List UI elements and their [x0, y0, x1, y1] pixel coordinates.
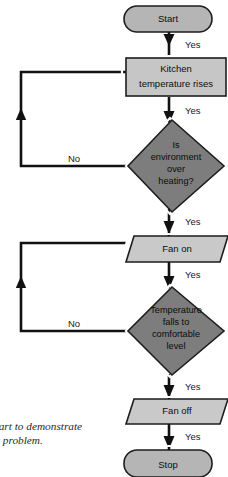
edge-label-yes-4: Yes — [185, 269, 201, 280]
caption-line-1: chart to demonstrate — [0, 420, 128, 434]
edge-label-yes-6: Yes — [185, 431, 201, 442]
node-fan-off[interactable]: Fan off — [122, 397, 228, 424]
stop-label: Stop — [158, 459, 178, 470]
kitchen-label-line1: Kitchen — [160, 63, 192, 74]
fanoff-label: Fan off — [162, 405, 192, 416]
edge-label-yes-3: Yes — [185, 216, 201, 227]
kitchen-label-line2: temperature rises — [139, 78, 213, 89]
decision1-label-line4: heating? — [158, 176, 193, 186]
node-stop[interactable]: Stop — [124, 446, 212, 477]
edge-label-yes-1: Yes — [185, 39, 201, 50]
connector-decision2-to-fanoff — [164, 374, 175, 399]
caption-line-2: uit problem. — [0, 434, 128, 448]
decision1-label-line1: Is — [172, 140, 180, 150]
edge-label-no-1: No — [68, 153, 80, 164]
decision1-label-line3: over — [167, 164, 185, 174]
connector-start-to-kitchen — [164, 31, 175, 56]
flowchart-svg: Start Kitchen temperature rises Is envir… — [0, 0, 228, 477]
node-decision-is-environment-over-heating[interactable]: Is environment over heating? — [126, 118, 224, 214]
start-label: Start — [158, 13, 178, 24]
decision2-label-line3: comfortable — [152, 329, 200, 339]
fanon-label: Fan on — [162, 243, 192, 254]
decision2-label-line2: falls to — [163, 317, 190, 327]
node-start[interactable]: Start — [124, 2, 212, 32]
node-fan-on[interactable]: Fan on — [122, 234, 228, 262]
node-decision-temperature-falls-to-comfortable-level[interactable]: Temperature falls to comfortable level — [126, 285, 224, 377]
decision2-label-line1: Temperature — [150, 305, 202, 315]
decision1-label-line2: environment — [151, 152, 202, 162]
decision2-label-line4: level — [167, 341, 186, 351]
figure-caption: chart to demonstrate uit problem. — [0, 420, 128, 447]
flowchart-canvas: Start Kitchen temperature rises Is envir… — [0, 0, 228, 477]
edge-label-no-2: No — [68, 318, 80, 329]
node-kitchen-temperature-rises[interactable]: Kitchen temperature rises — [122, 56, 226, 96]
edge-label-yes-5: Yes — [185, 381, 201, 392]
edge-label-yes-2: Yes — [185, 105, 201, 116]
